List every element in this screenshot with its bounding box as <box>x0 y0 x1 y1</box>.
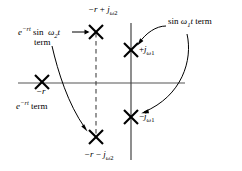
pole-label-plus-jw1: +jω1 <box>139 45 154 57</box>
annotation-sin-w1t-term: sin ω1t term <box>168 17 212 29</box>
arrow-exp-sin-to-bottom-pole <box>52 46 88 132</box>
pole-label-neg-r-minus-jw2: −r − jω2 <box>84 150 114 162</box>
annotation-exp-rt-term: e−rt term <box>16 100 47 111</box>
arrow-sin-w1-to-upper-pole <box>137 26 166 46</box>
annotation-exp-sin-w2t-term-line2: term <box>34 38 51 47</box>
pole-label-minus-jw1: −jω1 <box>139 112 154 124</box>
arrow-exp-sin-to-top-pole <box>72 30 90 35</box>
figure-canvas: −r + jω2 −r − jω2 −r +jω1 −jω1 e−rt sin … <box>0 0 242 171</box>
pole-label-neg-r: −r <box>36 87 46 96</box>
pole-label-neg-r-plus-jw2: −r + jω2 <box>88 5 118 17</box>
